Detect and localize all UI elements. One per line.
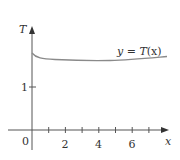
origin-label: 0 [22,135,29,148]
y-axis-arrow-icon [29,26,35,34]
chart: T x 0 2 4 6 1 y = T(x) [0,0,180,160]
x-tick-label-6: 6 [129,138,136,151]
curve-label: y = T(x) [116,45,162,58]
x-axis-arrow-icon [161,127,169,133]
y-axis-label: T [19,23,28,36]
x-axis-label: x [165,135,172,148]
y-tick-label-1: 1 [21,81,28,94]
x-tick-label-4: 4 [95,138,102,151]
x-tick-label-2: 2 [62,138,69,151]
